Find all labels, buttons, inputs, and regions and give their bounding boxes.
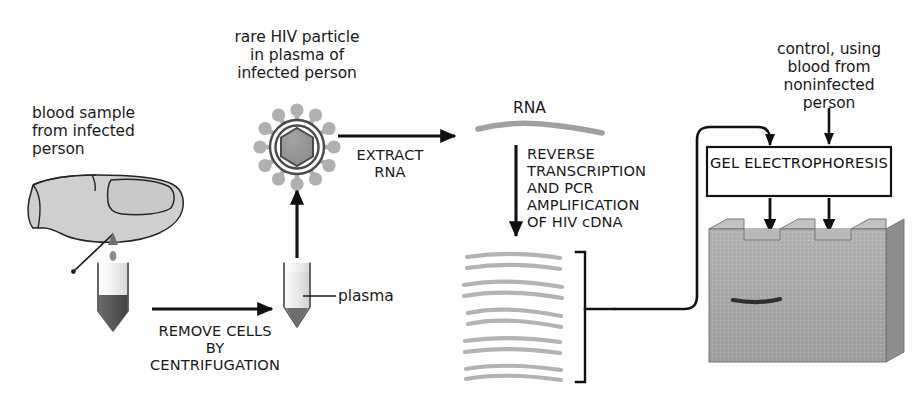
label-extract-rna: EXTRACT RNA	[334, 146, 446, 180]
cdna-bracket-connector	[576, 252, 614, 382]
figure-canvas: blood sample from infected person rare H…	[0, 0, 919, 407]
label-plasma: plasma	[338, 287, 428, 305]
label-reverse-transcription: REVERSE TRANSCRIPTION AND PCR AMPLIFICAT…	[527, 145, 677, 230]
rna-strand	[478, 123, 602, 133]
blood-tube-1	[98, 263, 128, 331]
plasma-tube-2	[284, 263, 310, 327]
label-gel-electrophoresis: GEL ELECTROPHORESIS	[707, 155, 891, 172]
label-blood-sample: blood sample from infected person	[32, 104, 200, 158]
label-hiv-particle: rare HIV particle in plasma of infected …	[197, 28, 397, 82]
gel-slab	[709, 219, 904, 362]
hiv-particle-icon	[253, 103, 340, 190]
cdna-strand-group	[464, 254, 562, 380]
finger-illustration	[28, 175, 183, 242]
label-control: control, using blood from noninfected pe…	[752, 40, 906, 113]
label-rna: RNA	[513, 99, 583, 117]
label-remove-cells: REMOVE CELLS BY CENTRIFUGATION	[110, 322, 320, 373]
